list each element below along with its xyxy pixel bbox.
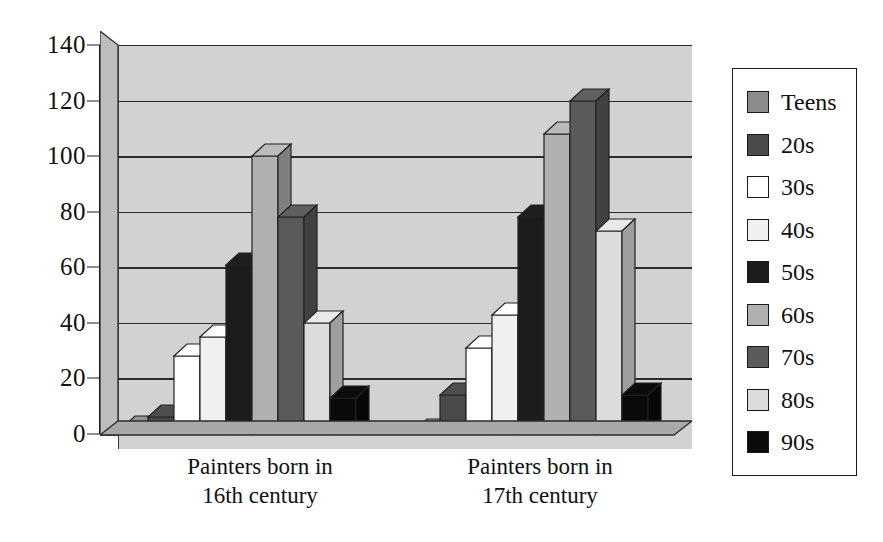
plot-area	[100, 31, 692, 435]
legend-item-label: 70s	[781, 345, 814, 369]
legend-swatch-icon	[747, 176, 769, 198]
legend-item-label: 90s	[781, 430, 814, 454]
legend-item-label: Teens	[781, 90, 837, 114]
legend-item-label: 80s	[781, 388, 814, 412]
bar-50s-group-1	[226, 253, 252, 434]
bar-80s-group-1	[304, 311, 330, 434]
x-axis-label-line: Painters born in	[400, 452, 680, 481]
legend-item-80s[interactable]: 80s	[747, 379, 856, 422]
legend-swatch-icon	[747, 431, 769, 453]
bar-60s-group-2	[544, 122, 570, 434]
x-axis-label-line: 17th century	[400, 481, 680, 510]
y-axis-tick-label: 20	[60, 364, 86, 392]
y-axis-tick-label: 80	[60, 198, 86, 226]
y-axis: 020406080100120140	[18, 30, 100, 442]
bar-70s-group-2	[570, 89, 596, 434]
bar-80s-group-2	[596, 219, 622, 434]
legend-item-label: 20s	[781, 133, 814, 157]
legend-item-teens[interactable]: Teens	[747, 81, 856, 124]
x-axis-label-line: 16th century	[120, 481, 400, 510]
bar-60s-group-1	[252, 144, 278, 434]
legend-swatch-icon	[747, 389, 769, 411]
legend-item-label: 60s	[781, 303, 814, 327]
plot-floor	[100, 418, 692, 436]
y-axis-tick-label: 60	[60, 253, 86, 281]
legend: Teens20s30s40s50s60s70s80s90s	[732, 68, 857, 476]
x-axis-label-line: Painters born in	[120, 452, 400, 481]
legend-item-30s[interactable]: 30s	[747, 166, 856, 209]
legend-item-40s[interactable]: 40s	[747, 209, 856, 252]
legend-swatch-icon	[747, 91, 769, 113]
legend-item-60s[interactable]: 60s	[747, 294, 856, 337]
legend-swatch-icon	[747, 304, 769, 326]
legend-item-90s[interactable]: 90s	[747, 421, 856, 464]
legend-item-label: 40s	[781, 218, 814, 242]
chart-figure: 020406080100120140 Painters born in16th …	[0, 0, 883, 542]
legend-item-50s[interactable]: 50s	[747, 251, 856, 294]
legend-item-20s[interactable]: 20s	[747, 124, 856, 167]
legend-item-70s[interactable]: 70s	[747, 336, 856, 379]
y-axis-tick-label: 120	[47, 87, 86, 115]
y-axis-tick-label: 40	[60, 309, 86, 337]
legend-item-label: 30s	[781, 175, 814, 199]
x-axis-label-group-1: Painters born in16th century	[120, 452, 400, 511]
legend-item-label: 50s	[781, 260, 814, 284]
bar-50s-group-2	[518, 205, 544, 434]
legend-swatch-icon	[747, 346, 769, 368]
y-axis-tick-label: 100	[47, 142, 86, 170]
legend-swatch-icon	[747, 134, 769, 156]
y-axis-tick-label: 0	[73, 420, 86, 448]
bar-70s-group-1	[278, 205, 304, 434]
x-axis-label-group-2: Painters born in17th century	[400, 452, 680, 511]
bar-series-container	[100, 31, 692, 435]
bar-40s-group-2	[492, 303, 518, 434]
legend-swatch-icon	[747, 261, 769, 283]
y-axis-tick-label: 140	[47, 31, 86, 59]
legend-swatch-icon	[747, 219, 769, 241]
